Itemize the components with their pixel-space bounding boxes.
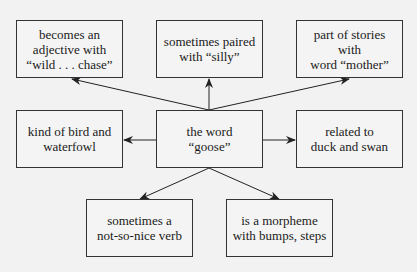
- arrow-to-br: [209, 168, 279, 199]
- node-label: sometimes paired with “silly”: [164, 34, 255, 64]
- arrow-to-bl: [140, 168, 209, 199]
- node-label: the word “goose”: [187, 124, 233, 154]
- node-label: related to duck and swan: [311, 124, 388, 154]
- node-label: becomes an adjective with “wild . . . ch…: [26, 27, 112, 72]
- node-mother: part of stories with word “mother”: [296, 20, 403, 78]
- node-label: part of stories with word “mother”: [301, 27, 398, 72]
- node-verb: sometimes a not-so-nice verb: [86, 199, 193, 257]
- arrow-to-tl: [72, 79, 209, 110]
- node-duck-swan: related to duck and swan: [296, 110, 403, 168]
- arrow-to-tr: [209, 79, 349, 110]
- node-bird: kind of bird and waterfowl: [16, 110, 123, 168]
- node-morpheme: is a morpheme with bumps, steps: [226, 199, 333, 257]
- node-adjective: becomes an adjective with “wild . . . ch…: [16, 20, 123, 78]
- node-silly: sometimes paired with “silly”: [156, 20, 263, 78]
- node-label: sometimes a not-so-nice verb: [97, 213, 182, 243]
- node-center-goose: the word “goose”: [156, 110, 263, 168]
- node-label: is a morpheme with bumps, steps: [233, 213, 327, 243]
- node-label: kind of bird and waterfowl: [28, 124, 111, 154]
